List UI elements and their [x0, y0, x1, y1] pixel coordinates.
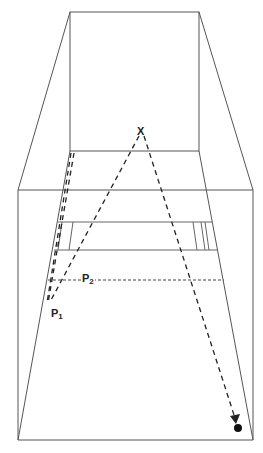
label-x-text: X: [137, 125, 144, 137]
target-dot: [234, 424, 242, 432]
floor-right-line: [199, 151, 253, 440]
label-x: X: [137, 126, 144, 137]
shelf-right-tick-3: [205, 222, 209, 250]
shelf-right-tick-1: [193, 222, 197, 250]
right-perspective-line: [199, 12, 253, 190]
floor-left-line: [18, 151, 70, 440]
arrowhead-icon: [230, 414, 240, 424]
dashed-path-x-to-target: [144, 136, 235, 418]
room-outline: [18, 12, 253, 440]
label-p1: P1: [51, 308, 63, 321]
shelf-right-tick-2: [201, 222, 205, 250]
label-p2-subscript: 2: [89, 277, 93, 286]
label-p1-subscript: 1: [58, 312, 62, 321]
back-wall: [70, 12, 199, 151]
left-perspective-line: [18, 12, 70, 190]
label-p2: P2: [81, 273, 95, 286]
shelf-band: [54, 222, 217, 250]
dashed-paths: [47, 136, 235, 418]
perspective-diagram: [0, 0, 263, 453]
shelf-left-tick-2: [69, 222, 73, 250]
